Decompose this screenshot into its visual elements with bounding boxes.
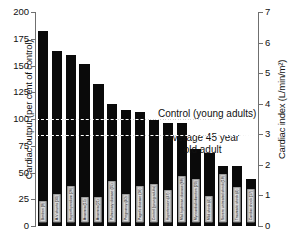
bar-label: Mal. hydrocar. disease (68) (178, 176, 185, 222)
y-tick-left (31, 226, 36, 227)
y-tick-label-right: 6 (265, 38, 270, 48)
y-tick-label-right: 1 (265, 191, 270, 201)
bar-label: Traumatic shock (4) (234, 187, 241, 222)
bar: Traumatic shock (4) (232, 166, 242, 226)
y-axis-right-title: Cardiac index (L/min/m²) (276, 30, 287, 190)
plot-area: 0255075100125150175200 01234567 Beriberi… (36, 12, 258, 226)
bar-label: Pregnancy (40) (123, 194, 130, 222)
y-tick-label-right: 0 (265, 221, 270, 231)
y-tick-label-left: 75 (18, 141, 29, 151)
bar-label: Anaemia (21) (95, 197, 102, 222)
y-tick-label-left: 50 (18, 168, 29, 178)
y-tick-label-right: 3 (265, 130, 270, 140)
bar-label: Control (young adults) (150, 184, 157, 222)
y-tick-label-left: 200 (13, 7, 29, 17)
bar: Mild shock (4) (204, 153, 214, 226)
bar-label: Cardiac shock (17) (247, 189, 254, 222)
bar: A-V shunts (30) (52, 51, 62, 226)
y-tick-label-right: 4 (265, 99, 270, 109)
bar-label: Anaemia (15) (81, 197, 88, 222)
bar: Cardiac shock (17) (246, 179, 256, 226)
bar: Control (young adults) (149, 120, 159, 226)
bar: Beriberi (8) (38, 31, 48, 226)
bar: Paget's disease (16) (135, 112, 145, 226)
y-tick-label-left: 150 (13, 61, 29, 71)
bar-label: Beriberi (8) (39, 201, 46, 222)
annotation-average-line2: old adult (166, 144, 239, 156)
bar-label: Hyperthyroidism (26) (67, 186, 74, 222)
y-tick-label-left: 0 (24, 221, 29, 231)
cardiac-output-chart: Cardiac output (per cent of control) Car… (0, 0, 305, 237)
bar-label: Pulmonary disease (35) (109, 181, 116, 222)
y-tick-right (258, 165, 263, 166)
bar-label: Mild shock (4) (206, 196, 213, 222)
y-axis-left-title: Cardiac output (per cent of control) (23, 30, 34, 190)
y-tick-label-right: 2 (265, 160, 270, 170)
bar: Severe untreated shock (18) (218, 166, 228, 226)
y-tick-right (258, 104, 263, 105)
y-tick-label-right: 7 (265, 7, 270, 17)
y-tick-right (258, 43, 263, 44)
bar: Pregnancy (40) (121, 110, 131, 226)
bar-label: Severe untreated shock (18) (220, 174, 227, 222)
y-tick-label-left: 175 (13, 34, 29, 44)
bar: Pulmonary disease (35) (107, 104, 117, 226)
y-tick-label-left: 100 (13, 114, 29, 124)
y-tick-right (258, 73, 263, 74)
bar: Anaemia (21) (93, 84, 103, 226)
bar: Anaemia (15) (79, 64, 89, 226)
annotation-average-line1: Average 45 year (166, 132, 239, 143)
y-tick-right (258, 12, 263, 13)
annotation-control: Control (young adults) (158, 108, 256, 120)
y-tick-label-left: 125 (13, 88, 29, 98)
bar-label: A-V shunts (30) (53, 194, 60, 222)
y-tick-right (258, 226, 263, 227)
bar: Hyperthyroidism (26) (66, 55, 76, 226)
annotation-average-adult: Average 45 year old adult (166, 132, 239, 155)
y-tick-label-right: 5 (265, 68, 270, 78)
bar-label: Hypertension (47) (164, 190, 171, 222)
y-tick-right (258, 195, 263, 196)
bar-label: Myocardial infarction (20) (192, 179, 199, 222)
bar: Myocardial infarction (20) (190, 149, 200, 226)
y-tick-right (258, 134, 263, 135)
y-tick-label-left: 25 (18, 195, 29, 205)
bar-label: Paget's disease (16) (136, 186, 143, 222)
